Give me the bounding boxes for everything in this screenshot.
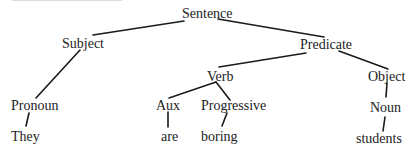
edge-predicate-object (339, 51, 388, 69)
edge-object-noun (386, 83, 387, 97)
syntax-tree-diagram: Sentence Subject Predicate Verb Object P… (0, 0, 411, 152)
leaf-students: students (356, 131, 402, 146)
node-verb: Verb (207, 69, 233, 84)
node-subject: Subject (62, 36, 104, 51)
node-object: Object (368, 69, 405, 84)
edge-sentence-subject (93, 21, 184, 35)
edge-progressive-boring (222, 113, 227, 126)
leaf-are: are (161, 129, 178, 144)
node-sentence: Sentence (182, 6, 233, 21)
edge-subject-pronoun (36, 50, 80, 98)
node-aux: Aux (156, 98, 180, 113)
leaf-boring: boring (201, 129, 238, 144)
edge-noun-students (383, 117, 385, 131)
leaf-they: They (11, 129, 40, 144)
edge-predicate-verb (219, 53, 306, 67)
node-pronoun: Pronoun (11, 98, 58, 113)
edge-sentence-predicate (218, 19, 324, 37)
node-noun: Noun (370, 100, 401, 115)
edge-verb-aux (169, 82, 216, 98)
edge-pronoun-they (26, 113, 29, 126)
tree-nodes: Sentence Subject Predicate Verb Object P… (11, 6, 405, 146)
node-progressive: Progressive (201, 98, 266, 113)
node-predicate: Predicate (300, 37, 352, 52)
